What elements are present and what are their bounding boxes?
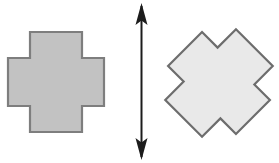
vertical-axis-arrow-svg xyxy=(0,0,279,163)
double-headed-vertical-arrow xyxy=(136,3,148,160)
figure-canvas xyxy=(0,0,279,163)
